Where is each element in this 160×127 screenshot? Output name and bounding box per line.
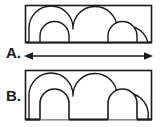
width-dimension-arrow	[24, 52, 153, 59]
panel-a-group	[26, 6, 152, 43]
label-a: A.	[6, 44, 21, 61]
panel-b-lower-arch-right	[108, 89, 137, 119]
dimension-arrowhead-right	[144, 52, 153, 59]
diagram-canvas: A. B.	[0, 0, 160, 127]
panel-b-lower-arch-left	[40, 89, 69, 120]
dimension-arrowhead-left	[24, 52, 33, 59]
label-b: B.	[6, 87, 21, 104]
arched-profile-figure: A. B.	[0, 0, 160, 127]
panel-b-group	[26, 71, 152, 120]
